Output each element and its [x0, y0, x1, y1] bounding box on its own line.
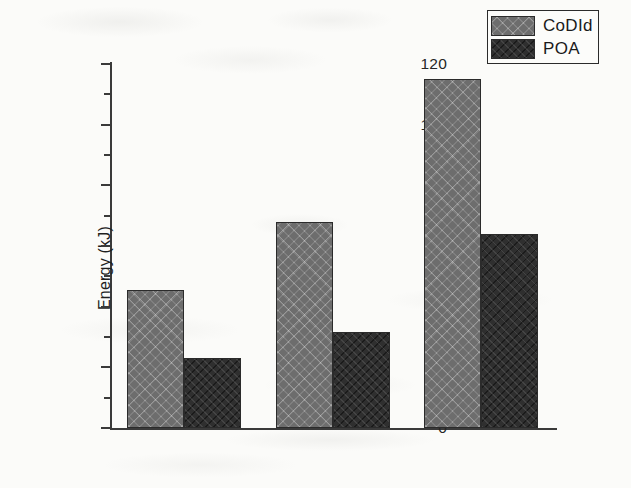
- y-tick-major: [101, 184, 110, 186]
- y-tick-minor: [104, 397, 110, 399]
- y-axis-title: Energy (kJ): [96, 130, 114, 310]
- y-tick-major: [101, 306, 110, 308]
- legend-label-poa: POA: [543, 39, 580, 59]
- poa-swatch-icon: [491, 39, 535, 59]
- bar-chart-figure: Energy (kJ) 020406080100120 Low overload…: [0, 0, 631, 488]
- codid-swatch-icon: [491, 16, 535, 36]
- legend-item-codid[interactable]: CoDId: [491, 14, 593, 37]
- bar-codid-2: [424, 79, 481, 428]
- y-tick-minor: [104, 215, 110, 217]
- y-tick-major: [101, 427, 110, 429]
- y-tick-minor: [104, 93, 110, 95]
- y-tick-major: [101, 366, 110, 368]
- legend-label-codid: CoDId: [543, 16, 593, 36]
- y-tick-minor: [104, 154, 110, 156]
- legend-item-poa[interactable]: POA: [491, 37, 593, 60]
- bar-codid-0: [127, 290, 184, 428]
- bar-poa-0: [184, 358, 241, 428]
- y-tick-minor: [104, 336, 110, 338]
- y-tick-major: [101, 124, 110, 126]
- bar-poa-2: [481, 234, 538, 428]
- bar-poa-1: [333, 332, 390, 428]
- y-tick-major: [101, 245, 110, 247]
- chart-legend[interactable]: CoDId POA: [487, 10, 599, 64]
- y-tick-major: [101, 63, 110, 65]
- bar-codid-1: [276, 222, 333, 428]
- y-tick-label: 120: [421, 55, 447, 73]
- y-tick-minor: [104, 275, 110, 277]
- x-axis-line: [110, 428, 557, 430]
- plot-area: Energy (kJ) 020406080100120 Low overload…: [110, 64, 555, 428]
